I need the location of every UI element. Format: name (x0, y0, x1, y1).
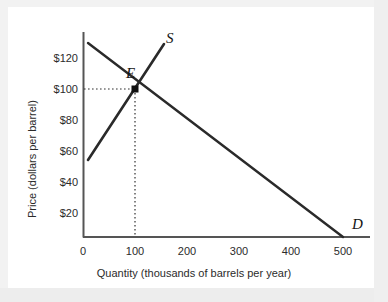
y-tick-label: $40 (34, 176, 78, 188)
y-tick-label: $120 (34, 52, 78, 64)
supply-curve[interactable] (88, 44, 164, 160)
y-tick-label: $60 (34, 145, 78, 157)
x-tick-label: 0 (63, 245, 103, 257)
equilibrium-label: E (126, 65, 135, 82)
x-tick-label: 300 (219, 245, 259, 257)
x-axis-title: Quantity (thousands of barrels per year) (0, 267, 388, 279)
y-axis-title: Price (dollars per barrel) (26, 100, 38, 218)
demand-curve-label: D (352, 216, 363, 233)
x-tick-label: 500 (323, 245, 363, 257)
chart-page: $120 $100 $80 $60 $40 $20 0 100 200 300 … (0, 0, 388, 302)
y-tick-label: $100 (34, 83, 78, 95)
supply-curve-label: S (166, 30, 174, 47)
equilibrium-marker[interactable] (132, 86, 139, 93)
x-tick-label: 200 (167, 245, 207, 257)
y-tick-label: $20 (34, 207, 78, 219)
y-tick-label: $80 (34, 114, 78, 126)
x-tick-label: 100 (115, 245, 155, 257)
x-tick-label: 400 (271, 245, 311, 257)
